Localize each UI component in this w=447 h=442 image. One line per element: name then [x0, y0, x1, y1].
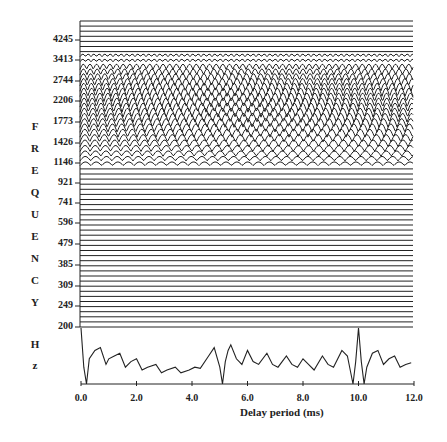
y-tick-label: 2206 — [33, 94, 73, 105]
y-tick-label: 2744 — [33, 74, 73, 85]
y-tick-label: 479 — [33, 237, 73, 248]
y-tick-label: 200 — [33, 320, 73, 331]
x-tick-label: 10.0 — [344, 392, 374, 403]
frequency-trace — [80, 156, 413, 161]
frequency-traces — [80, 21, 413, 327]
frequency-trace — [80, 151, 413, 156]
y-tick-label: 249 — [33, 299, 73, 310]
y-axis — [75, 21, 80, 327]
frequency-trace — [80, 64, 413, 69]
frequency-trace — [80, 93, 413, 102]
frequency-trace — [80, 54, 413, 56]
y-tick-label: 921 — [33, 176, 73, 187]
y-tick-label: 309 — [33, 279, 73, 290]
y-tick-label: 1426 — [33, 136, 73, 147]
frequency-trace — [80, 59, 413, 61]
y-tick-label: 1146 — [33, 156, 73, 167]
y-label-letter: z — [28, 359, 42, 371]
frequency-trace — [80, 135, 413, 142]
y-label-letter: H — [28, 338, 42, 350]
summary-trace — [81, 328, 411, 384]
frequency-trace — [80, 74, 413, 81]
summary-trace-line — [81, 328, 411, 384]
x-tick-label: 6.0 — [233, 392, 263, 403]
frequency-trace — [80, 113, 413, 122]
x-axis-label: Delay period (ms) — [0, 406, 447, 418]
y-tick-label: 596 — [33, 216, 73, 227]
x-tick-label: 4.0 — [177, 392, 207, 403]
y-tick-label: 1773 — [33, 115, 73, 126]
y-tick-label: 3413 — [33, 53, 73, 64]
frequency-trace — [80, 83, 413, 91]
frequency-trace — [80, 162, 413, 166]
y-tick-label: 4245 — [33, 33, 73, 44]
x-tick-label: 12.0 — [399, 392, 429, 403]
x-tick-label: 8.0 — [288, 392, 318, 403]
y-tick-label: 741 — [33, 196, 73, 207]
y-tick-label: 385 — [33, 258, 73, 269]
x-axis-label-text: Delay period (ms) — [240, 406, 324, 418]
x-tick-label: 0.0 — [66, 392, 96, 403]
x-tick-label: 2.0 — [122, 392, 152, 403]
